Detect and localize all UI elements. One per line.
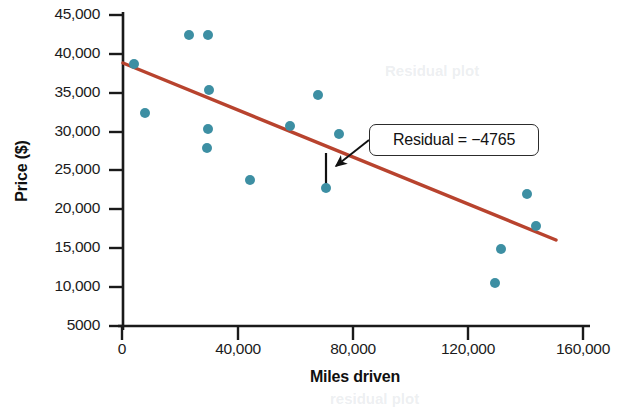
y-tick-label-30000: 30,000 — [20, 122, 100, 140]
y-axis-title: Price ($) — [13, 121, 31, 221]
residual-annotation-box: Residual = −4765 — [369, 124, 539, 156]
x-tick-label-80000: 80,000 — [308, 340, 398, 358]
data-point — [203, 30, 213, 40]
y-tick-label-35000: 35,000 — [20, 83, 100, 101]
y-tick-label-25000: 25,000 — [20, 160, 100, 178]
data-point — [285, 121, 295, 131]
y-tick-label-10000: 10,000 — [20, 277, 100, 295]
data-point — [313, 90, 323, 100]
data-points — [129, 30, 541, 288]
data-point — [202, 143, 212, 153]
y-tick-label-45000: 45,000 — [20, 5, 100, 23]
y-tick-label-5000: 5000 — [20, 316, 100, 334]
data-point — [334, 129, 344, 139]
y-axis-ticks — [109, 15, 123, 326]
x-axis-title: Miles driven — [255, 368, 455, 386]
data-point — [129, 59, 139, 69]
x-tick-label-160000: 160,000 — [538, 340, 625, 358]
y-tick-label-40000: 40,000 — [20, 44, 100, 62]
data-point — [204, 85, 214, 95]
data-point — [522, 189, 532, 199]
data-point-residual — [321, 183, 331, 193]
data-point — [496, 244, 506, 254]
data-point — [140, 108, 150, 118]
y-tick-label-15000: 15,000 — [20, 238, 100, 256]
data-point — [531, 221, 541, 231]
data-point — [245, 175, 255, 185]
residual-annotation-label: Residual = −4765 — [393, 131, 515, 149]
x-tick-label-120000: 120,000 — [423, 340, 513, 358]
x-axis-ticks — [122, 326, 583, 340]
data-point — [203, 124, 213, 134]
x-tick-label-0: 0 — [77, 340, 167, 358]
x-tick-label-40000: 40,000 — [193, 340, 283, 358]
y-tick-label-20000: 20,000 — [20, 199, 100, 217]
data-point — [184, 30, 194, 40]
data-point — [490, 278, 500, 288]
